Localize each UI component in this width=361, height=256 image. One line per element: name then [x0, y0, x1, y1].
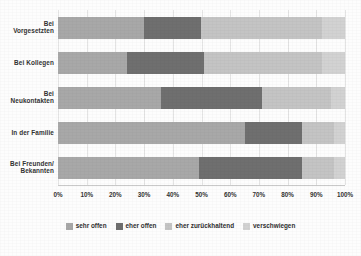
- x-tick-label: 40%: [166, 190, 179, 199]
- bar-segment: [201, 17, 322, 39]
- stacked-bar-chart: BeiVorgesetztenBei KollegenBeiNeukontakt…: [0, 0, 361, 256]
- bar-row: [58, 87, 345, 109]
- legend-item[interactable]: sehr offen: [66, 222, 107, 230]
- bar-segment: [58, 87, 161, 109]
- legend-swatch-icon: [165, 223, 172, 230]
- x-tick-label: 70%: [253, 190, 266, 199]
- category-label: Bei Kollegen: [0, 59, 54, 67]
- bar-segment: [245, 122, 302, 144]
- legend-label: eher offen: [126, 222, 157, 230]
- legend-item[interactable]: eher zurückhaltend: [165, 222, 234, 230]
- x-axis-tick-labels: 0%10%20%30%40%50%60%70%80%90%100%: [0, 190, 361, 202]
- legend-swatch-icon: [243, 223, 250, 230]
- category-label-line: Bekannten: [0, 167, 54, 175]
- bar-segment: [331, 87, 345, 109]
- x-tick-label: 30%: [138, 190, 151, 199]
- bar-segment: [262, 87, 331, 109]
- bar-row: [58, 122, 345, 144]
- x-tick-label: 0%: [53, 190, 62, 199]
- category-label: BeiVorgesetzten: [0, 20, 54, 35]
- bar-segment: [334, 122, 345, 144]
- x-axis-line: [58, 185, 345, 186]
- category-label-line: In der Familie: [0, 129, 54, 137]
- category-label: In der Familie: [0, 129, 54, 137]
- bar-segment: [322, 17, 345, 39]
- category-label-line: Bei: [0, 90, 54, 98]
- chart-legend: sehr offeneher offeneher zurückhaltendve…: [0, 222, 361, 230]
- x-tick-label: 80%: [281, 190, 294, 199]
- category-label-line: Bei: [0, 20, 54, 28]
- x-tick-label: 50%: [195, 190, 208, 199]
- bar-segment: [302, 122, 334, 144]
- legend-label: eher zurückhaltend: [175, 222, 234, 230]
- category-label: Bei Freunden/Bekannten: [0, 160, 54, 175]
- category-label-line: Bei Freunden/: [0, 160, 54, 168]
- legend-swatch-icon: [116, 223, 123, 230]
- legend-item[interactable]: verschwiegen: [243, 222, 295, 230]
- bar-row: [58, 52, 345, 74]
- bar-segment: [127, 52, 204, 74]
- bar-segment: [58, 157, 199, 179]
- bar-segment: [204, 52, 322, 74]
- bar-row: [58, 17, 345, 39]
- x-tick-label: 100%: [337, 190, 353, 199]
- bar-segment: [58, 122, 245, 144]
- bar-segment: [58, 52, 127, 74]
- legend-label: verschwiegen: [253, 222, 295, 230]
- legend-label: sehr offen: [76, 222, 107, 230]
- x-tick-label: 60%: [224, 190, 237, 199]
- gridline: [345, 10, 346, 185]
- bar-segment: [161, 87, 261, 109]
- category-label: BeiNeukontakten: [0, 90, 54, 105]
- category-axis: BeiVorgesetztenBei KollegenBeiNeukontakt…: [0, 10, 55, 185]
- bar-segment: [58, 17, 144, 39]
- x-tick-label: 20%: [109, 190, 122, 199]
- category-label-line: Vorgesetzten: [0, 27, 54, 35]
- bar-segment: [334, 157, 345, 179]
- category-label-line: Neukontakten: [0, 97, 54, 105]
- bar-segment: [322, 52, 345, 74]
- category-label-line: Bei Kollegen: [0, 59, 54, 67]
- bar-segment: [302, 157, 334, 179]
- x-tick-label: 10%: [80, 190, 93, 199]
- legend-item[interactable]: eher offen: [116, 222, 157, 230]
- plot-area: [58, 10, 345, 185]
- bar-segment: [199, 157, 302, 179]
- bar-row: [58, 157, 345, 179]
- legend-swatch-icon: [66, 223, 73, 230]
- x-tick-label: 90%: [310, 190, 323, 199]
- bar-segment: [144, 17, 201, 39]
